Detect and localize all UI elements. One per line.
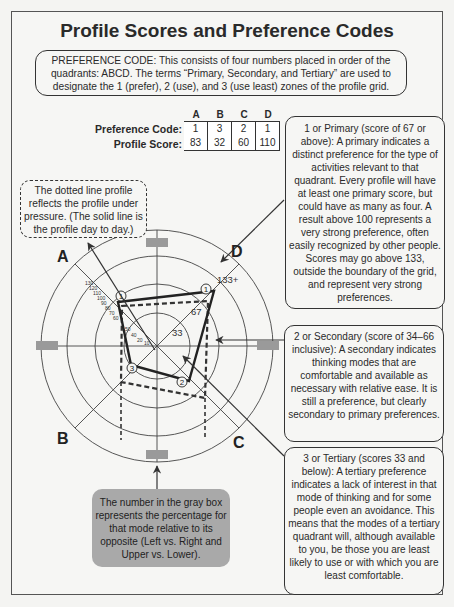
ring-label-33: 33 — [172, 327, 183, 338]
quadrant-label-b: B — [57, 430, 69, 448]
svg-text:3: 3 — [130, 364, 135, 373]
secondary-callout: 2 or Secondary (score of 34–66 inclusive… — [284, 325, 444, 442]
svg-text:20: 20 — [137, 337, 143, 343]
grid-axes — [41, 230, 273, 462]
ring-label-133: 133+ — [217, 274, 239, 285]
primary-callout: 1 or Primary (score of 67 or above): A p… — [285, 116, 445, 309]
tertiary-callout: 3 or Tertiary (scores 33 and below): A t… — [284, 447, 444, 595]
svg-text:1: 1 — [204, 285, 209, 294]
svg-text:2: 2 — [180, 378, 185, 387]
gray-box-callout: The number in the gray box represents th… — [92, 489, 230, 567]
svg-text:50: 50 — [125, 326, 131, 332]
ring-label-67: 67 — [191, 306, 202, 317]
gray-box-top — [146, 238, 168, 247]
svg-text:60: 60 — [113, 315, 119, 321]
quadrant-label-d: D — [231, 243, 243, 261]
svg-text:40: 40 — [131, 332, 137, 338]
gray-box-right — [257, 341, 279, 350]
gray-box-left — [36, 341, 58, 350]
quadrant-label-a: A — [57, 248, 69, 266]
quadrant-label-c: C — [233, 434, 245, 452]
dotted-line-callout: The dotted line profile reflects the pro… — [20, 180, 147, 238]
gray-box-bottom — [146, 450, 168, 459]
